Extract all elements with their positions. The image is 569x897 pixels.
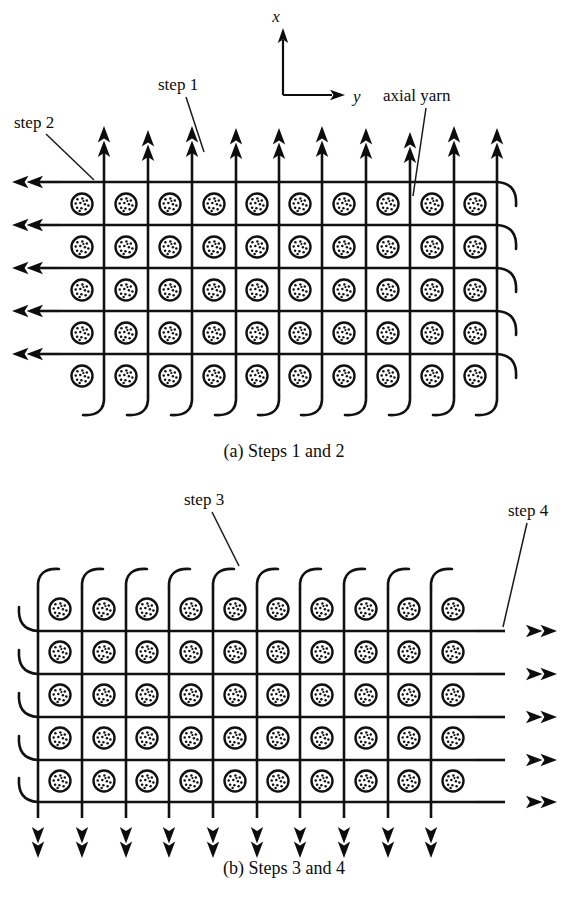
axial-yarn-label: axial yarn — [383, 86, 451, 105]
hook-bottom — [171, 396, 192, 415]
hook-top — [126, 569, 147, 588]
down-arrowhead — [382, 827, 394, 858]
hook-bottom — [127, 396, 148, 415]
hook-bottom — [476, 396, 497, 415]
hook-top — [213, 569, 234, 588]
hook-bottom — [258, 396, 279, 415]
step-1-arrowhead — [230, 128, 242, 159]
panel-a-bottom-edge-hooks — [83, 396, 497, 415]
hook-left — [19, 650, 38, 674]
hook-top — [344, 569, 365, 588]
panel-a: step 1 step 2 axial yarn (a) Steps 1 and… — [12, 75, 516, 462]
panel-b-left-edge-hooks — [19, 607, 38, 802]
down-arrowhead — [294, 827, 306, 858]
panel-b: step 3 step 4 (b) Steps 3 and 4 — [19, 490, 557, 879]
hook-top — [431, 569, 452, 588]
hook-left — [19, 693, 38, 717]
hook-bottom — [301, 396, 322, 415]
step-4-arrowhead — [526, 668, 557, 680]
hook-bottom — [83, 396, 104, 415]
hook-top — [300, 569, 321, 588]
hook-left — [19, 607, 38, 631]
hook-bottom — [389, 396, 410, 415]
step-2-arrowhead — [12, 348, 43, 360]
step-3-label: step 3 — [184, 490, 224, 509]
coordinate-axes: x y — [271, 7, 361, 106]
down-arrowhead — [338, 827, 350, 858]
hook-top — [388, 569, 409, 588]
step-1-arrowhead — [316, 126, 328, 157]
step-3-leader-line — [212, 512, 239, 566]
step-4-arrowhead — [526, 754, 557, 766]
step-1-leader-line — [186, 97, 204, 152]
hook-right — [497, 311, 516, 335]
step-1-label: step 1 — [158, 75, 198, 94]
step-2-label: step 2 — [14, 113, 54, 132]
y-axis-arrowhead — [330, 90, 345, 100]
step-1-arrowhead — [360, 128, 372, 159]
hook-right — [497, 268, 516, 292]
step-4-arrowhead — [526, 711, 557, 723]
step-2-arrowhead — [12, 262, 43, 274]
x-axis-label: x — [271, 7, 280, 26]
panel-b-caption: (b) Steps 3 and 4 — [223, 858, 345, 879]
step-4-label: step 4 — [508, 501, 549, 520]
down-arrowhead — [163, 827, 175, 858]
step-4-arrowhead — [526, 625, 557, 637]
step-1-arrowhead — [404, 132, 416, 163]
panel-a-caption: (a) Steps 1 and 2 — [224, 441, 345, 462]
braiding-process-figure: x y — [0, 0, 569, 897]
hook-right — [497, 182, 516, 206]
hook-right — [497, 354, 516, 378]
panel-a-right-edge-hooks — [497, 182, 516, 378]
y-axis-label: y — [351, 87, 361, 106]
step-4-leader-line — [503, 523, 527, 627]
panel-a-step-2-arrows — [12, 176, 60, 360]
down-arrowhead — [32, 827, 44, 858]
step-2-arrowhead — [12, 305, 43, 317]
hook-top — [169, 569, 190, 588]
hook-bottom — [345, 396, 366, 415]
step-1-arrowhead — [98, 126, 110, 157]
step-1-arrowhead — [273, 128, 285, 159]
hook-left — [19, 736, 38, 760]
hook-top — [257, 569, 278, 588]
panel-b-step-3-down-arrows — [32, 802, 437, 858]
down-arrowhead — [425, 827, 437, 858]
step-2-leader-line — [46, 134, 94, 180]
hook-bottom — [433, 396, 454, 415]
step-4-arrowhead — [526, 796, 557, 808]
step-2-arrowhead — [12, 219, 43, 231]
hook-top — [82, 569, 103, 588]
panel-a-step-1-arrows — [98, 126, 503, 182]
down-arrowhead — [76, 827, 88, 858]
step-1-arrowhead — [142, 130, 154, 161]
hook-bottom — [215, 396, 236, 415]
down-arrowhead — [207, 827, 219, 858]
down-arrowhead — [251, 827, 263, 858]
hook-right — [497, 225, 516, 249]
step-2-arrowhead — [12, 176, 43, 188]
step-1-arrowhead — [491, 128, 503, 159]
panel-b-step-4-arrows — [475, 625, 557, 808]
panel-b-top-edge-hooks — [38, 569, 452, 588]
hook-left — [19, 778, 38, 802]
step-1-arrowhead — [448, 126, 460, 157]
figure-root: x y — [0, 0, 569, 897]
down-arrowhead — [120, 827, 132, 858]
hook-top — [38, 569, 59, 588]
